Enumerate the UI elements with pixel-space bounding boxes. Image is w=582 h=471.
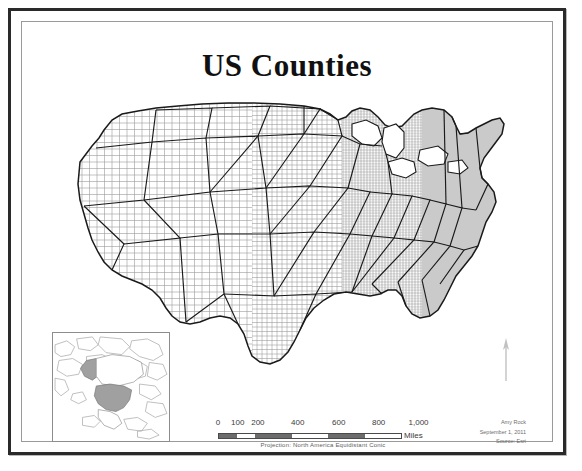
scale-tick-600: 600 [332,418,345,427]
scale-segment-3 [255,434,291,438]
scale-segment-5 [328,434,364,438]
scale-tick-200: 200 [251,418,264,427]
north-arrow [498,334,514,388]
projection-note: Projection: North America Equidistant Co… [218,442,428,448]
north-arrow-icon [498,334,514,388]
scale-tick-400: 400 [291,418,304,427]
credit-author: Amy Rock [480,418,526,428]
scale-tick-100: 100 [231,418,244,427]
scale-segment-1 [219,434,237,438]
north-america-locator-map [52,332,170,442]
scale-segment-4 [292,434,328,438]
locator-map-graphic [53,333,169,441]
scale-units-label: Miles [404,431,423,440]
inner-frame-border: US Counties [21,21,553,442]
scale-segment-6 [365,434,401,438]
credit-source: Source: Esri [480,437,526,447]
map-poster: US Counties [8,8,566,455]
scale-segment-2 [237,434,255,438]
credit-date: September 1, 2011 [480,428,526,438]
scale-bar-graphic [218,433,402,439]
scale-tick-labels: 0 100 200 400 600 800 1,000 [218,418,428,430]
scale-tick-0: 0 [216,418,220,427]
scale-tick-800: 800 [372,418,385,427]
scale-tick-1000: 1,000 [409,418,429,427]
map-credits: Amy Rock September 1, 2011 Source: Esri [480,418,526,447]
scale-bar: 0 100 200 400 600 800 1,000 Miles [218,418,428,448]
page-title: US Counties [22,48,552,84]
